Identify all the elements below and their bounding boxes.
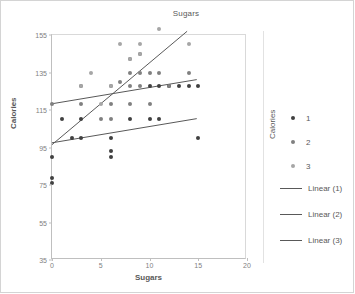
y-axis-title: Calories: [9, 97, 18, 129]
data-point-series-1: [196, 84, 200, 88]
y-axis-tick-mark: [49, 35, 52, 36]
legend: Calories 123Linear (1)Linear (2)Linear (…: [263, 31, 355, 263]
data-point-series-2: [167, 84, 171, 88]
x-axis-tick-mark: [101, 258, 102, 261]
legend-item-label: Linear (3): [308, 236, 342, 245]
y-axis-tick-mark: [49, 72, 52, 73]
data-point-series-3: [109, 84, 113, 88]
legend-item-linear1[interactable]: Linear (1): [280, 181, 342, 195]
plot-inner: [52, 35, 245, 258]
legend-item-3[interactable]: 3: [284, 159, 310, 173]
data-point-series-1: [79, 136, 83, 140]
data-point-series-2: [118, 80, 122, 84]
data-point-series-1: [109, 136, 113, 140]
legend-dot-icon: [291, 164, 295, 168]
data-point-series-3: [138, 52, 142, 56]
y-axis-tick-mark: [49, 110, 52, 111]
data-point-series-3: [138, 42, 142, 46]
x-axis-title: Sugars: [51, 273, 246, 282]
data-point-series-2: [109, 117, 113, 121]
y-axis-tick-label: 55: [23, 219, 47, 226]
y-axis-tick-label: 135: [23, 69, 47, 76]
data-point-series-2: [99, 117, 103, 121]
trendline-linear3: [52, 31, 187, 144]
x-axis-tick-label: 10: [146, 262, 154, 269]
data-point-series-3: [99, 102, 103, 106]
data-point-series-1: [148, 84, 152, 88]
data-point-series-2: [109, 102, 113, 106]
data-point-series-2: [138, 71, 142, 75]
trendline-linear2: [52, 80, 197, 104]
data-point-series-1: [50, 155, 54, 159]
data-point-series-1: [70, 136, 74, 140]
data-point-series-3: [89, 71, 93, 75]
x-axis-tick-label: 0: [50, 262, 54, 269]
legend-dot-icon: [291, 140, 295, 144]
y-axis-tick-mark: [49, 185, 52, 186]
x-axis-tick-label: 15: [194, 262, 202, 269]
legend-line-icon: [280, 214, 304, 215]
data-point-series-2: [128, 84, 132, 88]
y-axis-tick-label: 155: [23, 32, 47, 39]
y-axis-tick-mark: [49, 222, 52, 223]
y-axis-tick-label: 35: [23, 257, 47, 264]
data-point-series-1: [148, 117, 152, 121]
plot-area: 3555759511513515505101520: [51, 34, 246, 259]
legend-marker-icon: [284, 116, 302, 120]
data-point-series-3: [128, 57, 132, 61]
data-point-series-2: [79, 102, 83, 106]
legend-item-label: 3: [306, 162, 310, 171]
data-point-series-2: [128, 71, 132, 75]
data-point-series-2: [50, 102, 54, 106]
data-point-series-1: [177, 84, 181, 88]
legend-item-label: 2: [306, 138, 310, 147]
legend-line-icon: [280, 240, 304, 241]
y-axis-tick-label: 95: [23, 144, 47, 151]
legend-item-label: 1: [306, 114, 310, 123]
data-point-series-1: [157, 117, 161, 121]
data-point-series-2: [187, 71, 191, 75]
x-axis-tick-mark: [247, 258, 248, 261]
data-point-series-3: [79, 84, 83, 88]
data-point-series-1: [128, 117, 132, 121]
data-point-series-1: [196, 136, 200, 140]
data-point-series-2: [128, 102, 132, 106]
x-axis-tick-label: 5: [99, 262, 103, 269]
y-axis-tick-mark: [49, 147, 52, 148]
trendlines-layer: [52, 35, 245, 258]
legend-item-label: Linear (2): [308, 210, 342, 219]
legend-item-label: Linear (1): [308, 184, 342, 193]
data-point-series-3: [118, 42, 122, 46]
data-point-series-1: [187, 84, 191, 88]
legend-title: Calories: [268, 110, 277, 139]
data-point-series-3: [187, 42, 191, 46]
legend-marker-icon: [284, 164, 302, 168]
legend-marker-icon: [284, 140, 302, 144]
legend-line-swatch-icon: [280, 214, 302, 215]
legend-item-linear2[interactable]: Linear (2): [280, 207, 342, 221]
legend-item-1[interactable]: 1: [284, 111, 310, 125]
data-point-series-1: [109, 155, 113, 159]
y-axis-tick-label: 75: [23, 182, 47, 189]
legend-item-linear3[interactable]: Linear (3): [280, 233, 342, 247]
data-point-series-2: [157, 71, 161, 75]
data-point-series-1: [50, 176, 54, 180]
legend-line-swatch-icon: [280, 240, 302, 241]
legend-line-swatch-icon: [280, 188, 302, 189]
data-point-series-2: [138, 84, 142, 88]
data-point-series-1: [109, 149, 113, 153]
data-point-series-2: [148, 102, 152, 106]
x-axis-tick-mark: [52, 258, 53, 261]
data-point-series-1: [157, 84, 161, 88]
x-axis-tick-mark: [198, 258, 199, 261]
data-point-series-1: [60, 117, 64, 121]
data-point-series-2: [148, 71, 152, 75]
legend-item-2[interactable]: 2: [284, 135, 310, 149]
legend-line-icon: [280, 188, 304, 189]
trendline-linear1: [52, 119, 197, 143]
data-point-series-1: [79, 117, 83, 121]
legend-dot-icon: [291, 116, 295, 120]
chart-title: Sugars: [121, 9, 251, 18]
x-axis-tick-label: 20: [243, 262, 251, 269]
y-axis-tick-label: 115: [23, 107, 47, 114]
